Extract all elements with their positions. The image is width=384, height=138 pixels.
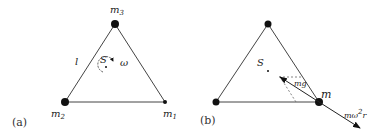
panel-a: m3 m2 m1 l S ω (a) <box>12 4 177 129</box>
figure-canvas: m3 m2 m1 l S ω (a) S mg m mω2r <box>0 0 384 138</box>
mass-top-b <box>265 21 272 28</box>
label-m3: m3 <box>110 4 124 17</box>
label-omega: ω <box>120 57 128 68</box>
mass-m2 <box>61 98 69 106</box>
mass-left-b <box>213 99 220 106</box>
label-center-s-b: S <box>257 57 264 68</box>
caption-a: (a) <box>12 116 27 129</box>
center-point <box>105 66 107 68</box>
triangle-a <box>65 24 165 102</box>
mass-m3 <box>111 20 119 28</box>
panel-b: S mg m mω2r (b) <box>200 21 368 129</box>
label-center-s: S <box>100 54 107 65</box>
mass-m1 <box>163 100 167 104</box>
label-m: m <box>321 88 331 101</box>
label-m1: m1 <box>163 108 177 121</box>
caption-b: (b) <box>200 114 216 127</box>
triangle-b <box>216 24 319 102</box>
center-point-b <box>267 70 269 72</box>
label-m2: m2 <box>51 108 65 121</box>
label-side-length: l <box>75 56 78 67</box>
label-centrifugal: mω2r <box>344 108 368 120</box>
label-mg: mg <box>294 79 307 88</box>
